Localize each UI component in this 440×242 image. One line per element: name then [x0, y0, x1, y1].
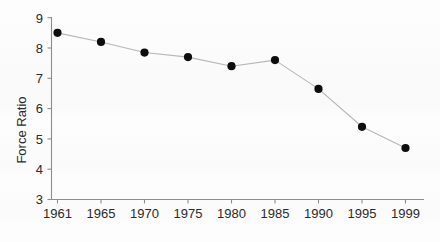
data-point-1999 — [401, 144, 409, 152]
data-point-1985 — [271, 56, 279, 64]
y-axis-label-5: 5 — [36, 132, 43, 147]
x-axis-label-1975: 1975 — [174, 206, 203, 221]
y-axis-label-6: 6 — [36, 101, 43, 116]
x-axis-label-1999: 1999 — [391, 206, 420, 221]
chart-plot-area: Force Ratio 3 4 5 6 7 8 9 — [0, 0, 440, 242]
data-point-1965 — [97, 38, 105, 46]
y-axis-tick-labels: 3 4 5 6 7 8 9 — [36, 11, 43, 208]
y-axis-label-3: 3 — [36, 192, 43, 207]
x-axis-label-1995: 1995 — [348, 206, 377, 221]
force-ratio-markers — [53, 29, 409, 152]
x-axis-label-1970: 1970 — [130, 206, 159, 221]
force-ratio-line — [58, 33, 406, 148]
data-point-1990 — [314, 85, 322, 93]
x-axis-label-1990: 1990 — [304, 206, 333, 221]
x-axis-ticks — [58, 200, 406, 204]
y-axis-label-8: 8 — [36, 41, 43, 56]
x-axis-label-1965: 1965 — [87, 206, 116, 221]
x-axis-label-1961: 1961 — [43, 206, 72, 221]
y-axis-label-4: 4 — [36, 162, 43, 177]
x-axis-label-1985: 1985 — [261, 206, 290, 221]
y-axis-label-9: 9 — [36, 11, 43, 26]
data-point-1995 — [358, 123, 366, 131]
x-axis-label-1980: 1980 — [217, 206, 246, 221]
data-point-1980 — [227, 62, 235, 70]
y-axis-ticks — [48, 18, 52, 200]
force-ratio-chart: Force Ratio 3 4 5 6 7 8 9 — [0, 0, 440, 242]
data-point-1975 — [184, 53, 192, 61]
data-point-1970 — [140, 48, 148, 56]
data-point-1961 — [53, 29, 61, 37]
y-axis-title: Force Ratio — [14, 96, 29, 163]
x-axis-tick-labels: 1961 1965 1970 1975 1980 1985 1990 1995 … — [43, 206, 420, 221]
y-axis-label-7: 7 — [36, 71, 43, 86]
